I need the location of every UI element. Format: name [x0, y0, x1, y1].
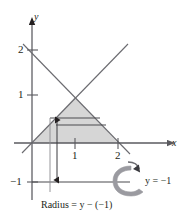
- y-axis-label: y: [34, 12, 38, 22]
- radius-caption: Radius = y − (−1): [41, 200, 112, 210]
- x-tick-label-1: 1: [72, 150, 78, 161]
- shaded-region: [32, 97, 118, 143]
- figure-canvas: y x 2 1 −1 1 2 y = −1 Radius = y − (−1): [0, 0, 190, 222]
- rotation-arrow-icon: [113, 162, 143, 196]
- y-tick-label-1: 1: [18, 89, 24, 100]
- x-tick-label-2: 2: [115, 150, 121, 161]
- y-tick-label-2: 2: [18, 44, 24, 55]
- figure-svg: [0, 0, 190, 222]
- x-axis-label: x: [172, 138, 176, 148]
- y-tick-label-minus-1: −1: [10, 176, 22, 187]
- axis-of-revolution-label: y = −1: [145, 176, 171, 186]
